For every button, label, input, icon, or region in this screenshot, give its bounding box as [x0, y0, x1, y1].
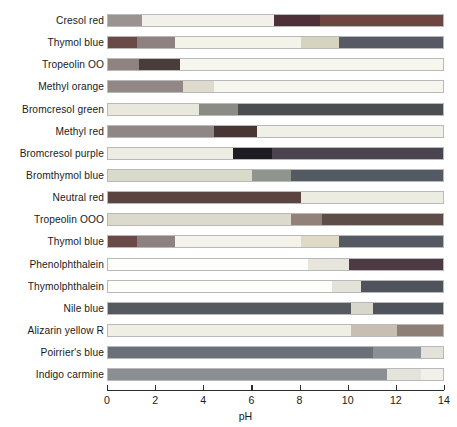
axis-tick: [300, 385, 301, 391]
indicator-bar: [107, 213, 444, 226]
indicator-row: Alizarin yellow R: [0, 324, 457, 346]
bar-segment: [175, 236, 300, 247]
indicator-label: Bromthymol blue: [0, 169, 104, 182]
indicator-label: Phenolphthalein: [0, 258, 104, 271]
bar-segment: [175, 37, 300, 48]
bar-segment: [332, 281, 361, 292]
bar-segment: [108, 325, 351, 336]
x-axis: 02468101214 pH: [0, 390, 457, 427]
indicator-row: Indigo carmine: [0, 368, 457, 390]
indicator-row: Methyl red: [0, 125, 457, 147]
indicator-label: Thymolphthalein: [0, 280, 104, 293]
bar-segment: [214, 126, 257, 137]
bar-segment: [108, 347, 373, 358]
indicator-row: Tropeolin OO: [0, 58, 457, 80]
indicator-bar: [107, 258, 444, 271]
axis-tick: [348, 385, 349, 391]
indicator-row: Thymolphthalein: [0, 280, 457, 302]
indicator-label: Thymol blue: [0, 235, 104, 248]
indicator-label: Methyl red: [0, 125, 104, 138]
indicator-bar: [107, 103, 444, 116]
bar-segment: [108, 148, 233, 159]
indicator-bar: [107, 191, 444, 204]
bar-segment: [387, 369, 421, 380]
indicator-bar: [107, 58, 444, 71]
indicator-bar: [107, 125, 444, 138]
indicator-label: Thymol blue: [0, 36, 104, 49]
axis-line: [107, 390, 444, 391]
indicator-rows: Cresol redThymol blueTropeolin OOMethyl …: [0, 14, 457, 390]
indicator-row: Poirrier's blue: [0, 346, 457, 368]
bar-segment: [108, 170, 252, 181]
indicator-bar: [107, 235, 444, 248]
bar-segment: [139, 59, 180, 70]
indicator-row: Tropeolin OOO: [0, 213, 457, 235]
bar-segment: [137, 236, 176, 247]
bar-segment: [301, 37, 340, 48]
bar-segment: [108, 259, 308, 270]
axis-tick-label: 12: [381, 394, 411, 406]
bar-segment: [108, 15, 142, 26]
axis-tick: [203, 385, 204, 391]
indicator-label: Tropeolin OO: [0, 58, 104, 71]
bar-segment: [373, 303, 444, 314]
axis-tick-label: 6: [236, 394, 266, 406]
indicator-label: Bromcresol purple: [0, 147, 104, 160]
bar-segment: [339, 37, 444, 48]
bar-segment: [361, 281, 444, 292]
axis-tick-label: 2: [140, 394, 170, 406]
bar-segment: [233, 148, 272, 159]
bar-segment: [108, 37, 137, 48]
bar-segment: [108, 192, 301, 203]
indicator-label: Bromcresol green: [0, 103, 104, 116]
axis-tick: [107, 385, 108, 391]
indicator-row: Nile blue: [0, 302, 457, 324]
indicator-label: Neutral red: [0, 191, 104, 204]
indicator-label: Poirrier's blue: [0, 346, 104, 359]
indicator-row: Phenolphthalein: [0, 258, 457, 280]
indicator-label: Nile blue: [0, 302, 104, 315]
bar-segment: [373, 347, 421, 358]
ph-indicator-chart: Cresol redThymol blueTropeolin OOMethyl …: [0, 0, 457, 427]
axis-tick: [396, 385, 397, 391]
bar-segment: [108, 126, 214, 137]
bar-segment: [349, 259, 444, 270]
bar-segment: [108, 281, 332, 292]
axis-tick: [155, 385, 156, 391]
bar-segment: [238, 104, 444, 115]
indicator-row: Neutral red: [0, 191, 457, 213]
indicator-bar: [107, 324, 444, 337]
bar-segment: [421, 369, 444, 380]
indicator-label: Tropeolin OOO: [0, 213, 104, 226]
bar-segment: [180, 59, 444, 70]
bar-segment: [351, 303, 373, 314]
indicator-label: Indigo carmine: [0, 368, 104, 381]
bar-segment: [252, 170, 291, 181]
bar-segment: [397, 325, 444, 336]
indicator-row: Bromthymol blue: [0, 169, 457, 191]
bar-segment: [108, 214, 291, 225]
bar-segment: [291, 170, 444, 181]
axis-tick: [251, 385, 252, 391]
indicator-bar: [107, 346, 444, 359]
bar-segment: [142, 15, 274, 26]
axis-tick-label: 10: [333, 394, 363, 406]
bar-segment: [291, 214, 322, 225]
indicator-bar: [107, 14, 444, 27]
bar-segment: [108, 369, 387, 380]
indicator-label: Alizarin yellow R: [0, 324, 104, 337]
bar-segment: [199, 104, 238, 115]
bar-segment: [339, 236, 444, 247]
indicator-bar: [107, 147, 444, 160]
axis-tick-label: 0: [92, 394, 122, 406]
indicator-bar: [107, 169, 444, 182]
bar-segment: [322, 214, 444, 225]
indicator-row: Thymol blue: [0, 235, 457, 257]
bar-segment: [108, 303, 351, 314]
indicator-label: Cresol red: [0, 14, 104, 27]
indicator-row: Methyl orange: [0, 80, 457, 102]
bar-segment: [257, 126, 444, 137]
indicator-row: Bromcresol purple: [0, 147, 457, 169]
axis-title-text: pH: [239, 410, 253, 422]
indicator-bar: [107, 368, 444, 381]
